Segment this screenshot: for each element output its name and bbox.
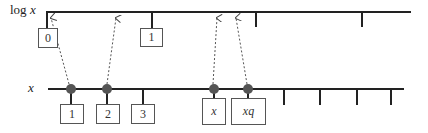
linear-box-1: 1 — [60, 104, 84, 124]
log-axis-label-prefix: log — [10, 2, 30, 17]
arrow-xq — [236, 18, 247, 84]
linear-box-3: 3 — [131, 104, 155, 124]
log-axis-label-var: x — [30, 2, 36, 17]
log-box-1: 1 — [140, 28, 163, 47]
log-axis-label: log x — [10, 2, 36, 18]
linear-axis-label-var: x — [28, 80, 34, 95]
log-axis — [47, 11, 411, 29]
point-xq — [243, 84, 253, 94]
arrow-2 — [107, 18, 116, 84]
linear-axis — [48, 89, 404, 105]
point-2 — [102, 84, 112, 94]
linear-box-2: 2 — [96, 104, 120, 124]
linear-axis-label: x — [28, 80, 34, 96]
log-box-0: 0 — [38, 28, 58, 48]
linear-box-x: x — [202, 98, 226, 125]
arrow-x — [213, 18, 217, 84]
point-1 — [66, 84, 76, 94]
point-x — [209, 84, 219, 94]
linear-box-xq: xq — [231, 98, 266, 125]
